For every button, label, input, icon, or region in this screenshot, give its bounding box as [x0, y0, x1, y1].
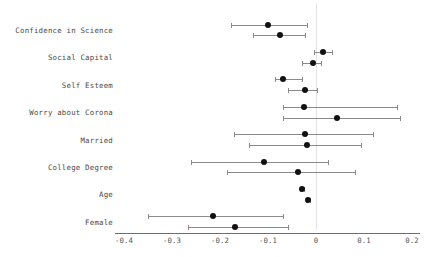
estimate-dot [261, 159, 267, 165]
ci-cap-upper [321, 61, 322, 66]
category-label: College Degree [0, 163, 113, 172]
ci-cap-upper [373, 132, 374, 137]
x-axis-line [115, 233, 420, 234]
ci-cap-lower [191, 160, 192, 165]
ci-cap-lower [249, 143, 250, 148]
category-label: Age [0, 190, 113, 199]
ci-cap-lower [253, 33, 254, 38]
coefficient-plot: Confidence in ScienceSocial CapitalSelf … [0, 0, 428, 257]
estimate-dot [265, 22, 271, 28]
ci-cap-lower [314, 50, 315, 55]
ci-cap-lower [288, 88, 289, 93]
ci-cap-upper [397, 105, 398, 110]
estimate-dot [232, 224, 238, 230]
ci-cap-upper [317, 88, 318, 93]
ci-cap-upper [307, 23, 308, 28]
confidence-interval-bar [275, 79, 302, 80]
estimate-dot [305, 197, 311, 203]
ci-cap-lower [231, 23, 232, 28]
ci-cap-upper [328, 160, 329, 165]
estimate-dot [301, 104, 307, 110]
confidence-interval-bar [283, 107, 397, 108]
x-tick-label: 0.1 [344, 236, 384, 245]
ci-cap-upper [288, 225, 289, 230]
x-tick-label: -0.3 [152, 236, 192, 245]
x-tick-label: 0 [296, 236, 336, 245]
ci-cap-lower [234, 132, 235, 137]
estimate-dot [310, 60, 316, 66]
estimate-dot [295, 169, 301, 175]
category-label: Confidence in Science [0, 26, 113, 35]
confidence-interval-bar [227, 172, 355, 173]
ci-cap-upper [302, 77, 303, 82]
category-label: Female [0, 217, 113, 226]
ci-cap-upper [332, 50, 333, 55]
x-tick-label: 0.2 [392, 236, 428, 245]
ci-cap-upper [305, 33, 306, 38]
x-tick-label: -0.1 [248, 236, 288, 245]
confidence-interval-bar [283, 118, 401, 119]
confidence-interval-bar [191, 162, 328, 163]
ci-cap-lower [275, 77, 276, 82]
ci-cap-lower [188, 225, 189, 230]
category-label: Self Esteem [0, 80, 113, 89]
ci-cap-upper [355, 170, 356, 175]
estimate-dot [320, 49, 326, 55]
estimate-dot [277, 32, 283, 38]
category-label: Worry about Corona [0, 108, 113, 117]
estimate-dot [210, 213, 216, 219]
x-tick-label: -0.4 [104, 236, 144, 245]
estimate-dot [334, 115, 340, 121]
category-label: Social Capital [0, 53, 113, 62]
ci-cap-upper [400, 116, 401, 121]
category-label: Married [0, 135, 113, 144]
estimate-dot [304, 142, 310, 148]
ci-cap-lower [227, 170, 228, 175]
estimate-dot [302, 87, 308, 93]
x-tick-label: -0.2 [200, 236, 240, 245]
ci-cap-lower [302, 61, 303, 66]
ci-cap-upper [361, 143, 362, 148]
ci-cap-lower [148, 214, 149, 219]
ci-cap-lower [283, 116, 284, 121]
estimate-dot [302, 131, 308, 137]
estimate-dot [280, 76, 286, 82]
ci-cap-lower [283, 105, 284, 110]
ci-cap-upper [283, 214, 284, 219]
